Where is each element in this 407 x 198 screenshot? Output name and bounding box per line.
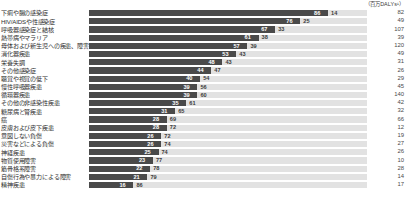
bar-value-primary: 16 xyxy=(119,182,125,189)
row-total-value: 12 xyxy=(397,124,404,131)
chart-row: 物質使用障害237710 xyxy=(0,156,407,164)
bar-segment-dark xyxy=(89,43,247,49)
bar-value-secondary: 14 xyxy=(331,10,337,17)
row-category-label: 下痢や腸の感染症 xyxy=(1,9,48,16)
chart-row: 熱帯病やマラリア613839 xyxy=(0,34,407,42)
row-total-value: 39 xyxy=(397,34,404,41)
row-category-label: 筋骨格系障害 xyxy=(1,165,36,172)
bar-value-secondary: 33 xyxy=(278,26,284,33)
chart-row: 母体および新生児への疾患、障害5739120 xyxy=(0,42,407,50)
bar-segment-dark xyxy=(89,92,197,98)
chart-row: 慢性呼吸器疾患395645 xyxy=(0,83,407,91)
row-bar-area: 4843 xyxy=(89,59,367,65)
row-total-value: 17 xyxy=(397,181,404,188)
bar-segment-dark xyxy=(89,76,200,82)
chart-row: 自傷行為や暴力による障害217914 xyxy=(0,173,407,181)
bar-value-secondary: 61 xyxy=(189,100,195,107)
row-total-value: 49 xyxy=(397,50,404,57)
chart-row: 聴覚や視覚の低下405429 xyxy=(0,75,407,83)
row-bar-area: 6733 xyxy=(89,26,367,32)
row-bar-area: 2377 xyxy=(89,157,367,163)
chart-row: その他感染症444726 xyxy=(0,66,407,74)
bar-value-primary: 28 xyxy=(153,124,159,131)
row-total-value: 49 xyxy=(397,17,404,24)
bar-value-secondary: 65 xyxy=(178,108,184,115)
bar-segment-dark xyxy=(89,26,275,32)
row-total-value: 14 xyxy=(397,173,404,180)
row-category-label: 消化器疾患 xyxy=(1,50,30,57)
row-total-value: 140 xyxy=(394,91,404,98)
bar-value-primary: 48 xyxy=(208,59,214,66)
bar-value-primary: 40 xyxy=(186,75,192,82)
row-total-value: 45 xyxy=(397,83,404,90)
bar-value-secondary: 56 xyxy=(200,84,206,91)
row-category-label: HIV/AIDSや性感染症 xyxy=(1,18,55,25)
chart-row: その他の非感染性疾患356142 xyxy=(0,99,407,107)
row-total-value: 26 xyxy=(397,67,404,74)
row-category-label: 循環器疾患 xyxy=(1,91,30,98)
row-category-label: 癌 xyxy=(1,116,7,123)
chart-row: 癌286966 xyxy=(0,115,407,123)
chart-row: 意図しない負傷267219 xyxy=(0,132,407,140)
bar-value-primary: 28 xyxy=(153,116,159,123)
row-total-value: 66 xyxy=(397,116,404,123)
bar-value-secondary: 43 xyxy=(225,59,231,66)
row-category-label: 皮膚および皮下疾患 xyxy=(1,124,54,131)
bar-value-primary: 39 xyxy=(183,92,189,99)
row-category-label: 熱帯病やマラリア xyxy=(1,34,48,41)
row-bar-area: 3956 xyxy=(89,84,367,90)
chart-row: 神経疾患257426 xyxy=(0,148,407,156)
bar-value-primary: 53 xyxy=(222,51,228,58)
row-total-value: 26 xyxy=(397,148,404,155)
chart-row: 消化器疾患534349 xyxy=(0,50,407,58)
row-category-label: 意図しない負傷 xyxy=(1,132,42,139)
chart-row: 精神疾患168617 xyxy=(0,181,407,189)
bar-value-primary: 76 xyxy=(286,18,292,25)
row-total-value: 42 xyxy=(397,99,404,106)
bar-value-primary: 31 xyxy=(161,108,167,115)
bar-value-primary: 57 xyxy=(233,43,239,50)
chart-row: 栄養失調484331 xyxy=(0,58,407,66)
bar-value-secondary: 77 xyxy=(156,157,162,164)
chart-row: HIV/AIDSや性感染症762549 xyxy=(0,17,407,25)
row-total-value: 29 xyxy=(397,75,404,82)
row-bar-area: 3960 xyxy=(89,92,367,98)
row-total-value: 32 xyxy=(397,107,404,114)
row-category-label: 神経疾患 xyxy=(1,149,24,156)
bar-value-primary: 22 xyxy=(136,165,142,172)
row-bar-area: 3561 xyxy=(89,100,367,106)
row-category-label: 自傷行為や暴力による障害 xyxy=(1,173,71,180)
bar-value-primary: 39 xyxy=(183,84,189,91)
bar-value-secondary: 43 xyxy=(239,51,245,58)
bar-value-secondary: 72 xyxy=(164,133,170,140)
row-bar-area: 5343 xyxy=(89,51,367,57)
row-bar-area: 8614 xyxy=(89,10,367,16)
row-total-value: 19 xyxy=(397,132,404,139)
bar-value-secondary: 39 xyxy=(250,43,256,50)
bar-value-secondary: 74 xyxy=(164,141,170,148)
row-category-label: 慢性呼吸器疾患 xyxy=(1,83,42,90)
bar-segment-dark xyxy=(89,10,328,16)
bar-value-primary: 25 xyxy=(145,149,151,156)
row-total-value: 10 xyxy=(397,157,404,164)
row-category-label: 災害などによる負傷 xyxy=(1,140,54,147)
row-bar-area: 3165 xyxy=(89,108,367,114)
row-bar-area: 2179 xyxy=(89,174,367,180)
row-category-label: 聴覚や視覚の低下 xyxy=(1,75,48,82)
bar-value-primary: 26 xyxy=(147,141,153,148)
bar-value-secondary: 47 xyxy=(214,67,220,74)
bar-segment-dark xyxy=(89,182,133,188)
row-bar-area: 5739 xyxy=(89,43,367,49)
chart-row: 下痢や腸の感染症861482 xyxy=(0,9,407,17)
bar-value-secondary: 25 xyxy=(303,18,309,25)
chart-header: （百万DALYs¹） xyxy=(0,0,407,9)
chart-row: 呼吸器感染症と結核6733107 xyxy=(0,25,407,33)
row-bar-area: 6138 xyxy=(89,35,367,41)
bar-value-primary: 86 xyxy=(314,10,320,17)
row-category-label: 呼吸器感染症と結核 xyxy=(1,26,54,33)
bar-value-secondary: 69 xyxy=(170,116,176,123)
row-bar-area: 2278 xyxy=(89,166,367,172)
chart-row: 糖尿病と腎疾患316532 xyxy=(0,107,407,115)
row-total-value: 31 xyxy=(397,58,404,65)
stacked-bar-chart: （百万DALYs¹） 下痢や腸の感染症861482HIV/AIDSや性感染症76… xyxy=(0,0,407,198)
